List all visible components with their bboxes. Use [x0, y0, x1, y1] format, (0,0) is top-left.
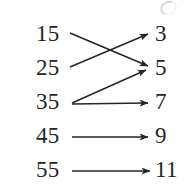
arrow-35-to-5: [72, 70, 146, 103]
domain-value-45: 45: [36, 124, 60, 147]
domain-value-55: 55: [36, 158, 60, 181]
domain-value-25: 25: [36, 56, 60, 79]
codomain-value-3: 3: [155, 22, 167, 45]
codomain-value-11: 11: [155, 158, 178, 181]
arrow-35-to-7: [72, 103, 148, 104]
arrow-15-to-5: [70, 33, 148, 66]
domain-value-35: 35: [36, 90, 60, 113]
mapping-diagram: 15 25 35 45 55 3 5 7 9 11: [0, 0, 195, 193]
arrow-25-to-3: [70, 34, 148, 67]
domain-value-15: 15: [36, 22, 60, 45]
codomain-value-7: 7: [155, 90, 167, 113]
codomain-value-9: 9: [155, 124, 167, 147]
codomain-value-5: 5: [155, 56, 167, 79]
